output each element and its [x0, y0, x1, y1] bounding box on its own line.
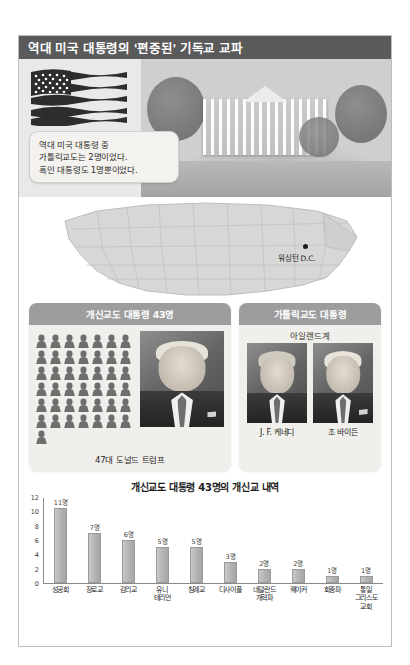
- president-pictogram-icon: [35, 349, 48, 363]
- president-pictogram-icon: [91, 397, 104, 411]
- bar-column: 11명: [44, 497, 78, 583]
- bar-value-label: 7명: [90, 522, 100, 532]
- bar-column: 6명: [112, 497, 146, 583]
- bar-value-label: 6명: [124, 529, 134, 539]
- kennedy-caption: J. F. 케네디: [247, 426, 307, 437]
- bar-column: 5명: [180, 497, 214, 583]
- face-detail: [158, 346, 205, 392]
- x-axis-category-label: 침례교: [179, 586, 213, 611]
- donald-trump-photo: [140, 331, 224, 427]
- biden-caption: 조 바이든: [313, 426, 373, 437]
- washington-dc-label: 워싱턴 D.C.: [278, 252, 316, 263]
- x-axis-category-label: 회중파: [315, 586, 349, 611]
- bar-value-label: 1명: [327, 565, 337, 575]
- bar: [224, 562, 237, 584]
- x-axis-category-label: 유니테리언: [145, 586, 179, 611]
- catholic-panel: 가톨릭교도 대통령 아일랜드계: [239, 303, 381, 471]
- tree-decoration: [299, 117, 339, 157]
- bar: [88, 533, 101, 583]
- bar: [190, 547, 203, 583]
- flag-pin-icon: [359, 409, 368, 415]
- face-detail: [260, 356, 294, 394]
- joe-biden-photo: [313, 343, 373, 423]
- bar-column: 2명: [247, 497, 281, 583]
- y-axis-tick: 10: [31, 508, 39, 516]
- president-pictogram-icon: [77, 365, 90, 379]
- protestant-panel-heading: 개신교도 대통령 43명: [29, 303, 231, 325]
- bar-column: 2명: [281, 497, 315, 583]
- president-pictogram-icon: [119, 365, 132, 379]
- chart-plot-area: 024681012 11명7명6명5명5명3명2명2명1명1명 성공회장로교감리…: [25, 498, 385, 620]
- jf-kennedy-photo: [247, 343, 307, 423]
- callout-box: 역대 미국 대통령 중 가톨릭교도는 2명이었다. 흑인 대통령도 1명뿐이었다…: [29, 131, 179, 183]
- president-pictogram-icon: [77, 349, 90, 363]
- president-pictogram-icon: [105, 349, 118, 363]
- washington-dc-marker-icon: [303, 244, 308, 249]
- president-pictogram-icon: [35, 381, 48, 395]
- president-pictogram-icon: [63, 365, 76, 379]
- president-pictogram-icon: [91, 349, 104, 363]
- chart-title: 개신교도 대통령 43명의 개신교 내역: [25, 479, 385, 494]
- president-pictogram-icon: [63, 413, 76, 427]
- hero-section: 역대 미국 대통령 중 가톨릭교도는 2명이었다. 흑인 대통령도 1명뿐이었다…: [19, 59, 391, 197]
- bar: [54, 508, 67, 583]
- president-pictogram-icon: [105, 365, 118, 379]
- president-pictogram-grid: [35, 331, 135, 448]
- president-pictogram-icon: [119, 397, 132, 411]
- president-pictogram-icon: [105, 413, 118, 427]
- president-pictogram-icon: [35, 333, 48, 347]
- bar-column: 3명: [214, 497, 248, 583]
- protestant-panel: 개신교도 대통령 43명 47대 도널드 트럼프: [29, 303, 231, 471]
- page-title-bar: 역대 미국 대통령의 '편중된' 기독교 교파: [19, 36, 391, 59]
- president-pictogram-icon: [77, 413, 90, 427]
- x-axis-category-label: 통일그리스도교회: [349, 586, 383, 611]
- president-pictogram-icon: [105, 397, 118, 411]
- denomination-panels: 개신교도 대통령 43명 47대 도널드 트럼프 가톨릭교도 대통령 아일랜드계: [19, 303, 391, 471]
- portico-detail: [243, 86, 287, 102]
- denomination-bar-chart: 개신교도 대통령 43명의 개신교 내역 024681012 11명7명6명5명…: [19, 471, 391, 621]
- y-axis-tick: 6: [35, 537, 39, 545]
- president-pictogram-icon: [91, 381, 104, 395]
- bar-value-label: 5명: [158, 536, 168, 546]
- president-pictogram-icon: [105, 333, 118, 347]
- president-pictogram-icon: [91, 413, 104, 427]
- y-axis-tick: 4: [35, 551, 39, 559]
- president-pictogram-icon: [77, 333, 90, 347]
- bar-column: 1명: [349, 497, 383, 583]
- x-axis-category-label: 디사이플: [213, 586, 247, 611]
- infographic-container: 역대 미국 대통령의 '편중된' 기독교 교파: [18, 35, 392, 647]
- face-detail: [326, 356, 360, 394]
- bar: [156, 547, 169, 583]
- president-pictogram-icon: [91, 365, 104, 379]
- bar: [258, 569, 271, 583]
- president-pictogram-icon: [119, 333, 132, 347]
- president-pictogram-icon: [35, 397, 48, 411]
- president-pictogram-icon: [49, 333, 62, 347]
- callout-line-3: 흑인 대통령도 1명뿐이었다.: [39, 164, 170, 176]
- bar-value-label: 2명: [293, 558, 303, 568]
- chart-bars: 11명7명6명5명5명3명2명2명1명1명: [44, 497, 383, 583]
- bar-value-label: 11명: [54, 497, 68, 507]
- page-title: 역대 미국 대통령의 '편중된' 기독교 교파: [28, 38, 243, 57]
- president-pictogram-icon: [63, 333, 76, 347]
- bar-column: 1명: [315, 497, 349, 583]
- president-pictogram-icon: [49, 413, 62, 427]
- president-pictogram-icon: [49, 381, 62, 395]
- y-axis-tick: 0: [35, 580, 39, 588]
- x-axis-tick-labels: 성공회장로교감리교유니테리언침례교디사이플네덜란드개혁파퀘이커회중파통일그리스도…: [43, 586, 383, 611]
- x-axis-category-label: 성공회: [43, 586, 77, 611]
- president-pictogram-icon: [63, 397, 76, 411]
- bar: [326, 576, 339, 583]
- bar-value-label: 1명: [361, 565, 371, 575]
- bar-column: 5명: [146, 497, 180, 583]
- bar: [122, 540, 135, 583]
- y-axis-tick-labels: 024681012: [25, 498, 41, 584]
- president-pictogram-icon: [35, 413, 48, 427]
- catholic-panel-heading: 가톨릭교도 대통령: [239, 303, 381, 325]
- bar-value-label: 5명: [192, 536, 202, 546]
- president-pictogram-icon: [35, 365, 48, 379]
- president-pictogram-icon: [49, 365, 62, 379]
- flag-pin-icon: [207, 411, 216, 417]
- bar-column: 7명: [78, 497, 112, 583]
- president-pictogram-icon: [91, 333, 104, 347]
